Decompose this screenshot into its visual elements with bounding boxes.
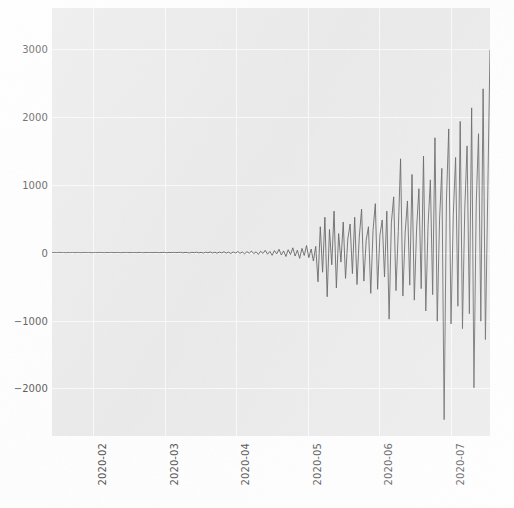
x-tick-label: 2020-02	[97, 443, 108, 485]
y-tick-label: −2000	[14, 383, 48, 394]
chart-figure: 3000200010000−1000−2000 2020-022020-0320…	[0, 0, 514, 508]
y-tick-label: 0	[42, 247, 48, 258]
plot-area	[52, 8, 490, 436]
y-tick-label: −1000	[14, 315, 48, 326]
series-1-line	[52, 50, 490, 420]
data-line-layer	[52, 8, 490, 436]
y-tick-label: 3000	[22, 43, 48, 54]
x-tick-label: 2020-03	[169, 443, 180, 485]
x-tick-label: 2020-05	[312, 443, 323, 485]
y-tick-label: 1000	[22, 179, 48, 190]
x-tick-label: 2020-07	[455, 443, 466, 485]
x-tick-label: 2020-04	[240, 443, 251, 485]
y-tick-label: 2000	[22, 111, 48, 122]
x-tick-label: 2020-06	[383, 443, 394, 485]
